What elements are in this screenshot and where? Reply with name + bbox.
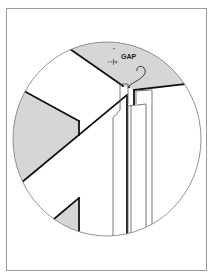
detail-illustration: 1 4 " GAP [0,0,214,273]
fraction-denominator: 4 [113,60,119,63]
gap-label: GAP [121,53,137,60]
inch-mark: " [113,47,115,53]
